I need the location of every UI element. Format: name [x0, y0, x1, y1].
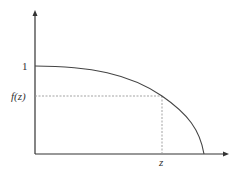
chart-canvas	[0, 0, 239, 172]
curve-f	[35, 66, 204, 154]
y-tick-one: 1	[22, 61, 28, 72]
x-axis-arrow-icon	[223, 152, 229, 157]
x-tick-z: z	[159, 157, 163, 168]
y-tick-fz: f(z)	[11, 91, 26, 102]
y-axis-arrow-icon	[33, 10, 38, 16]
